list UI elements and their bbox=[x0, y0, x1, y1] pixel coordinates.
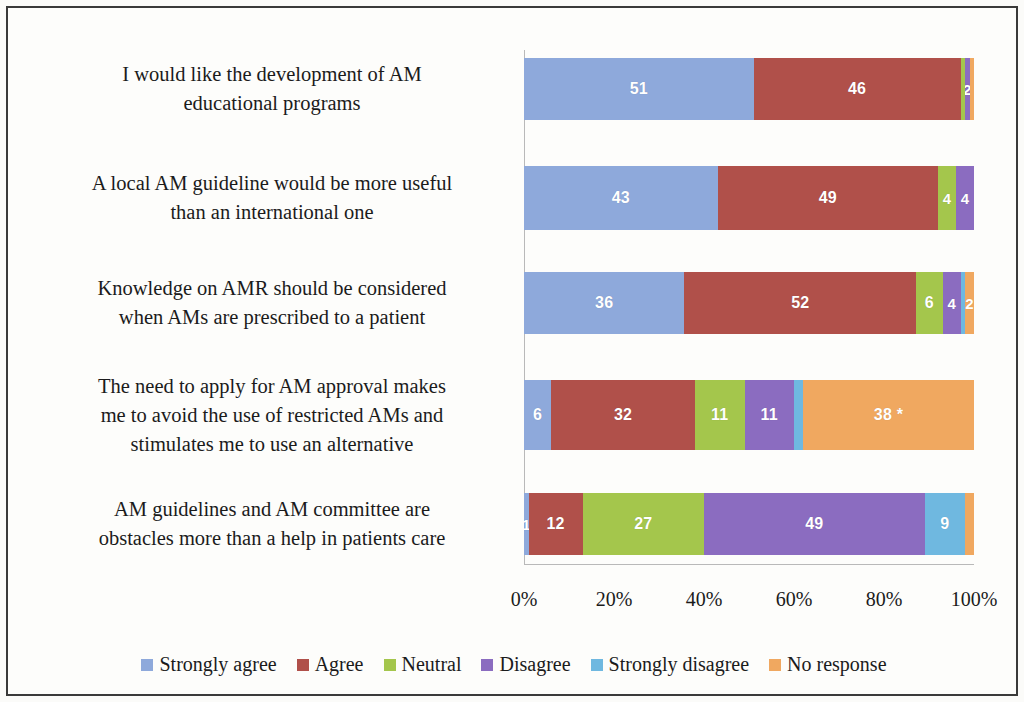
legend-label: Disagree bbox=[499, 653, 570, 676]
legend-swatch-icon bbox=[769, 659, 781, 671]
bar-segment-label: 52 bbox=[791, 294, 809, 312]
value-axis-tick: 60% bbox=[776, 588, 813, 611]
bar-row: 3652642 bbox=[524, 272, 974, 334]
category-label-line: than an international one bbox=[26, 198, 518, 227]
value-axis-labels: 0%20%40%60%80%100% bbox=[524, 588, 974, 618]
bar-segment: 4 bbox=[943, 272, 961, 334]
category-label: Knowledge on AMR should be consideredwhe… bbox=[26, 274, 518, 332]
bar-row: 11227499 bbox=[524, 493, 974, 555]
bar-segment bbox=[965, 493, 974, 555]
legend-label: Strongly agree bbox=[159, 653, 276, 676]
bar-segment-label: 6 bbox=[533, 406, 542, 424]
category-label-line: A local AM guideline would be more usefu… bbox=[26, 169, 518, 198]
category-label: The need to apply for AM approval makesm… bbox=[26, 372, 518, 459]
category-label-line: I would like the development of AM bbox=[26, 60, 518, 89]
legend-item[interactable]: Disagree bbox=[481, 653, 570, 676]
legend-label: Agree bbox=[315, 653, 364, 676]
category-label-line: when AMs are prescribed to a patient bbox=[26, 303, 518, 332]
bar-segment-label: 4 bbox=[943, 190, 952, 207]
legend-swatch-icon bbox=[297, 659, 309, 671]
bar-segment-label: 36 bbox=[595, 294, 613, 312]
bar-segment: 49 bbox=[704, 493, 925, 555]
bar-segment-label: 46 bbox=[848, 80, 866, 98]
bar-segment: 32 bbox=[551, 380, 695, 450]
legend-item[interactable]: Neutral bbox=[384, 653, 462, 676]
bar-row: 51462 bbox=[524, 58, 974, 120]
category-label-line: stimulates me to use an alternative bbox=[26, 430, 518, 459]
legend-swatch-icon bbox=[591, 659, 603, 671]
bar-segment: 52 bbox=[684, 272, 916, 334]
category-label: AM guidelines and AM committee areobstac… bbox=[26, 495, 518, 553]
bar-segment-label: 6 bbox=[925, 294, 934, 312]
legend-item[interactable]: No response bbox=[769, 653, 886, 676]
bar-segment: 12 bbox=[529, 493, 583, 555]
category-label-line: Knowledge on AMR should be considered bbox=[26, 274, 518, 303]
category-label-line: me to avoid the use of restricted AMs an… bbox=[26, 401, 518, 430]
bar-segment-label: 4 bbox=[947, 295, 956, 312]
legend-item[interactable]: Agree bbox=[297, 653, 364, 676]
chart-legend: Strongly agreeAgreeNeutralDisagreeStrong… bbox=[8, 653, 1020, 676]
bar-series-container: 514624349443652642632111138 *11227499 bbox=[524, 50, 974, 565]
category-label-line: The need to apply for AM approval makes bbox=[26, 372, 518, 401]
legend-item[interactable]: Strongly disagree bbox=[591, 653, 750, 676]
value-axis-tick: 100% bbox=[951, 588, 998, 611]
bar-segment: 43 bbox=[524, 166, 718, 230]
legend-item[interactable]: Strongly agree bbox=[141, 653, 276, 676]
bar-segment: 49 bbox=[718, 166, 939, 230]
bar-segment: 27 bbox=[583, 493, 705, 555]
plot-area: 514624349443652642632111138 *11227499 bbox=[524, 50, 974, 565]
category-label-line: AM guidelines and AM committee are bbox=[26, 495, 518, 524]
chart-frame: I would like the development of AMeducat… bbox=[6, 6, 1018, 696]
bar-segment: 4 bbox=[938, 166, 956, 230]
bar-segment: 4 bbox=[956, 166, 974, 230]
bar-segment-label: 2 bbox=[965, 295, 974, 312]
bar-segment: 38 * bbox=[803, 380, 974, 450]
legend-label: No response bbox=[787, 653, 886, 676]
category-label: I would like the development of AMeducat… bbox=[26, 60, 518, 118]
bar-segment-label: 11 bbox=[711, 406, 728, 424]
bar-segment-label: 49 bbox=[805, 515, 823, 533]
bar-segment-label: 43 bbox=[612, 189, 630, 207]
legend-swatch-icon bbox=[384, 659, 396, 671]
bar-segment bbox=[970, 58, 975, 120]
value-axis-tick: 40% bbox=[686, 588, 723, 611]
chart-page: I would like the development of AMeducat… bbox=[0, 0, 1024, 702]
bar-segment: 36 bbox=[524, 272, 684, 334]
legend-swatch-icon bbox=[481, 659, 493, 671]
bar-segment-label: 9 bbox=[940, 515, 949, 533]
bar-segment-label: 27 bbox=[634, 515, 652, 533]
bar-segment-label: 4 bbox=[961, 190, 970, 207]
bar-segment bbox=[794, 380, 803, 450]
category-label-line: educational programs bbox=[26, 89, 518, 118]
bar-row: 632111138 * bbox=[524, 380, 974, 450]
legend-label: Neutral bbox=[402, 653, 462, 676]
category-label: A local AM guideline would be more usefu… bbox=[26, 169, 518, 227]
bar-segment: 9 bbox=[925, 493, 966, 555]
bar-segment: 6 bbox=[916, 272, 943, 334]
bar-segment: 46 bbox=[754, 58, 961, 120]
bar-segment: 11 bbox=[745, 380, 795, 450]
legend-swatch-icon bbox=[141, 659, 153, 671]
bar-segment-label: 12 bbox=[546, 515, 564, 533]
value-axis-tick: 0% bbox=[511, 588, 538, 611]
category-axis-labels: I would like the development of AMeducat… bbox=[26, 50, 518, 565]
bar-segment-label: 38 * bbox=[874, 406, 903, 424]
value-axis-tick: 20% bbox=[596, 588, 633, 611]
value-axis-tick: 80% bbox=[866, 588, 903, 611]
bar-segment: 51 bbox=[524, 58, 754, 120]
bar-row: 434944 bbox=[524, 166, 974, 230]
bar-segment: 11 bbox=[695, 380, 745, 450]
bar-segment: 6 bbox=[524, 380, 551, 450]
bar-segment: 2 bbox=[965, 272, 974, 334]
bar-segment-label: 32 bbox=[614, 406, 632, 424]
legend-label: Strongly disagree bbox=[609, 653, 750, 676]
bar-segment-label: 51 bbox=[630, 80, 648, 98]
bar-segment-label: 11 bbox=[761, 406, 778, 424]
bar-segment-label: 49 bbox=[819, 189, 837, 207]
category-label-line: obstacles more than a help in patients c… bbox=[26, 524, 518, 553]
